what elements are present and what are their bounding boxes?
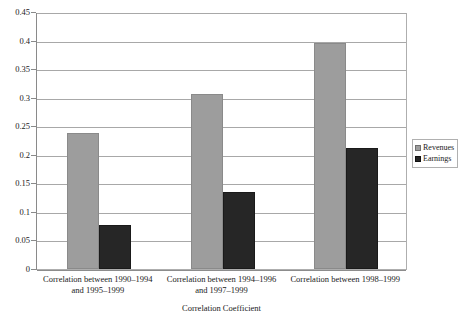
x-axis-category-label: Correlation between 1990–1994and 1995–19…: [36, 274, 160, 296]
y-axis-tick-label: 0.35: [0, 65, 30, 74]
y-axis-tick: [31, 212, 36, 213]
y-axis-tick: [31, 126, 36, 127]
y-axis-tick: [31, 98, 36, 99]
x-axis-category-label: Correlation between 1998–1999: [283, 274, 407, 285]
legend-label-earnings: Earnings: [423, 154, 451, 164]
y-axis-tick-label: 0.15: [0, 179, 30, 188]
gridline: [37, 70, 406, 71]
bar-revenues-1: [191, 94, 223, 269]
y-axis-tick-label: 0.45: [0, 8, 30, 17]
y-axis-tick-label: 0.4: [0, 37, 30, 46]
legend-swatch-earnings-icon: [415, 156, 421, 162]
y-axis-tick-label: 0.05: [0, 236, 30, 245]
plot-area: [36, 13, 407, 270]
bar-chart: 00.050.10.150.20.250.30.350.40.45 Correl…: [0, 0, 466, 327]
y-axis-tick: [31, 155, 36, 156]
legend-swatch-revenues-icon: [415, 145, 421, 151]
legend-item-earnings[interactable]: Earnings: [415, 154, 454, 164]
bar-revenues-0: [67, 133, 99, 269]
y-axis-tick-label: 0.1: [0, 208, 30, 217]
y-axis-tick: [31, 240, 36, 241]
y-axis-tick-label: 0.25: [0, 122, 30, 131]
x-axis-title: Correlation Coefficient: [36, 303, 407, 313]
gridline: [37, 13, 406, 14]
y-axis-line: [36, 13, 37, 270]
y-axis-tick: [31, 12, 36, 13]
y-axis-tick: [31, 183, 36, 184]
bar-earnings-1: [223, 192, 255, 269]
bar-earnings-0: [99, 225, 131, 269]
gridline: [37, 270, 406, 271]
y-axis-tick-label: 0.2: [0, 151, 30, 160]
y-axis-tick-label: 0.3: [0, 94, 30, 103]
y-axis-tick: [31, 69, 36, 70]
legend-item-revenues[interactable]: Revenues: [415, 143, 454, 153]
bar-earnings-2: [346, 148, 378, 269]
y-axis-tick: [31, 41, 36, 42]
chart-legend: Revenues Earnings: [412, 139, 458, 168]
x-axis-category-label: Correlation between 1994–1996and 1997–19…: [160, 274, 284, 296]
y-axis-tick-label: 0: [0, 265, 30, 274]
bar-revenues-2: [314, 43, 346, 269]
legend-label-revenues: Revenues: [423, 143, 454, 153]
y-axis-tick: [31, 269, 36, 270]
gridline: [37, 42, 406, 43]
